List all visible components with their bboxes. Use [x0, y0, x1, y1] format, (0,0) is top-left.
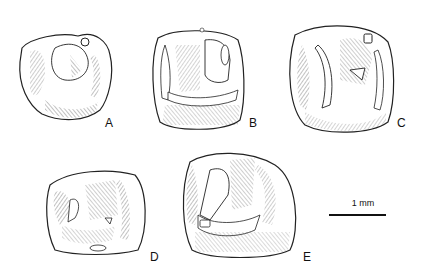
- scale-bar-label: 1 mm: [333, 198, 393, 208]
- tooth-c: [290, 26, 394, 132]
- specimen-label-b: B: [249, 116, 257, 130]
- tooth-illustrations: [0, 0, 426, 273]
- tooth-e: [183, 153, 295, 257]
- specimen-label-a: A: [105, 116, 113, 130]
- specimen-label-c: C: [397, 116, 406, 130]
- tooth-b: [153, 28, 244, 129]
- tooth-a: [20, 34, 112, 119]
- tooth-d: [47, 171, 145, 254]
- specimen-label-d: D: [150, 250, 159, 264]
- scale-bar-line: [329, 214, 386, 216]
- specimen-label-e: E: [303, 250, 311, 264]
